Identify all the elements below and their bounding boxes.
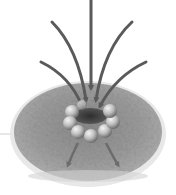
sphere	[84, 129, 98, 143]
disc-diagram	[0, 0, 176, 195]
sphere	[77, 100, 87, 110]
disc-lower-highlight	[28, 170, 148, 182]
sphere	[71, 125, 85, 139]
sphere	[103, 104, 117, 118]
diagram-canvas	[0, 0, 176, 195]
